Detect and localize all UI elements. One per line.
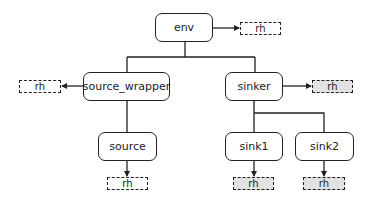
rh-box-sinker-label: rh	[327, 82, 337, 92]
node-source-wrapper-label: source_wrapper	[83, 80, 171, 93]
node-sinker: sinker	[225, 72, 283, 101]
edge-sinker-sinks	[254, 101, 324, 132]
node-sinker-label: sinker	[237, 80, 270, 93]
rh-box-sink1-label: rh	[248, 179, 258, 189]
rh-box-source-wrapper-label: rh	[35, 82, 45, 92]
rh-box-sink2: rh	[303, 177, 345, 190]
node-sink2-label: sink2	[310, 140, 339, 153]
node-sink1-label: sink1	[239, 140, 268, 153]
rh-box-sink2-label: rh	[319, 179, 329, 189]
node-env-label: env	[174, 21, 194, 34]
rh-box-source: rh	[107, 177, 148, 190]
rh-box-source-label: rh	[122, 179, 132, 189]
rh-box-sinker: rh	[312, 80, 353, 93]
rh-box-sink1: rh	[233, 177, 274, 190]
edge-env-children	[127, 42, 255, 72]
rh-box-env-label: rh	[255, 24, 265, 34]
node-source-label: source	[109, 140, 146, 153]
node-source: source	[98, 132, 157, 161]
node-sink2: sink2	[295, 132, 354, 161]
rh-box-env: rh	[240, 22, 281, 35]
node-sink1: sink1	[225, 132, 283, 161]
rh-box-source-wrapper: rh	[19, 80, 61, 93]
tree-diagram: env source_wrapper sinker source sink1 s…	[0, 0, 374, 203]
node-source-wrapper: source_wrapper	[83, 72, 170, 101]
node-env: env	[155, 13, 213, 42]
